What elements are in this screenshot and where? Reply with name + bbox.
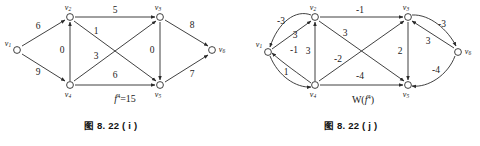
- node-v6: [455, 49, 462, 56]
- node-v2: [67, 14, 74, 21]
- left-graph: 6 9 0 5 1 3 6 0 8 7: [5, 3, 226, 104]
- node-label-v1: v1: [256, 40, 263, 49]
- edge-weight-v3-v6: 8: [190, 20, 195, 30]
- edge-weight-v1-v4: 1: [284, 67, 289, 77]
- node-v3: [405, 14, 412, 21]
- edge-v1-v2: [22, 20, 65, 46]
- node-label-v3: v3: [403, 3, 410, 12]
- edge-weight-v2-v3: -1: [356, 5, 364, 15]
- node-v1: [265, 49, 272, 56]
- node-label-v5: v5: [403, 90, 410, 99]
- node-label-v2: v2: [65, 3, 72, 12]
- node-label-v4: v4: [310, 90, 317, 99]
- weight-function-label: W(f4): [352, 93, 374, 106]
- edge-weight-v1-v2: 6: [36, 21, 41, 31]
- edge-weight-v5-v6: 7: [190, 69, 195, 79]
- edge-weight-v4-v3: 3: [94, 51, 99, 61]
- left-graph-weights: 6 9 0 5 1 3 6 0 8 7: [36, 5, 195, 80]
- node-v4: [67, 82, 74, 89]
- edge-weight-v4-v2: 3: [306, 46, 311, 56]
- node-label-v3: v3: [155, 3, 162, 12]
- edge-v1-v4-curved: [270, 56, 311, 87]
- figure-caption-j: 图 8. 22 ( j ): [324, 118, 377, 132]
- figure-caption-i: 图 8. 22 ( i ): [84, 118, 137, 132]
- node-v1: [14, 47, 21, 54]
- edge-weight-v4-v5: 6: [113, 70, 118, 80]
- node-label-v6: v6: [465, 47, 472, 56]
- edge-weight-v3-v5: 0: [150, 45, 155, 55]
- node-label-v1: v1: [5, 39, 12, 48]
- edge-weight-v1-v2: 3: [293, 30, 298, 40]
- flow-value-label: f4=15: [114, 92, 136, 104]
- edge-weight-v6-v5: -4: [432, 65, 440, 75]
- edge-weight-v4-v2: 0: [60, 45, 65, 55]
- edge-v3-v6-curved: [412, 15, 456, 46]
- edge-weight-v3-v5: 2: [398, 46, 403, 56]
- edge-v5-v6: [165, 55, 208, 82]
- node-v5: [157, 82, 164, 89]
- edge-weight-v2-v3: 5: [113, 5, 118, 15]
- edge-v6-v3: [412, 21, 454, 48]
- edge-weight-v6-v3: 3: [426, 36, 431, 46]
- edge-v4-v1-curved: [272, 53, 311, 83]
- edge-weight-v4-v5: -4: [356, 71, 364, 81]
- edge-weight-v3-v6: -3: [438, 19, 446, 29]
- edge-weight-v4-v1: -1: [290, 45, 298, 55]
- figure-panel: 6 9 0 5 1 3 6 0 8 7: [0, 0, 480, 146]
- graph-diagrams-svg: 6 9 0 5 1 3 6 0 8 7: [0, 0, 480, 146]
- node-label-v4: v4: [65, 90, 72, 99]
- right-graph: -3 3 -1 1 3 -1 -2 3 -4 2 -3 3 -4: [256, 3, 472, 106]
- node-label-v2: v2: [310, 3, 317, 12]
- edge-weight-v1-v4: 9: [36, 67, 41, 77]
- edge-weight-v4-v3: 3: [343, 28, 348, 38]
- node-v2: [312, 14, 319, 21]
- edge-weight-v2-v5: -2: [334, 54, 342, 64]
- node-label-v6: v6: [219, 45, 226, 54]
- edge-v3-v6: [165, 20, 208, 46]
- node-v4: [312, 82, 319, 89]
- node-v5: [405, 82, 412, 89]
- node-label-v5: v5: [155, 90, 162, 99]
- edge-v1-v4: [22, 54, 65, 81]
- node-v6: [209, 47, 216, 54]
- edge-weight-v2-v1: -3: [277, 16, 285, 26]
- edge-weight-v2-v5: 1: [94, 26, 99, 36]
- node-v3: [157, 14, 164, 21]
